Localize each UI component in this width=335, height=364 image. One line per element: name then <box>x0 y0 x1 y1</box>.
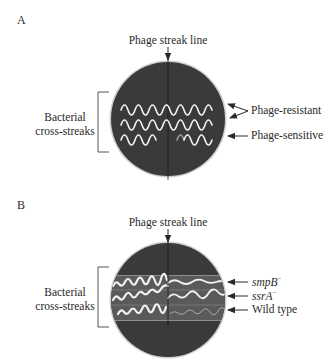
panel-a-phage-streak-label: Phage streak line <box>118 35 218 47</box>
panel-a-bacterial-label-1: Bacterial <box>32 112 98 124</box>
phage-sensitive-label: Phage-sensitive <box>251 130 323 142</box>
smpb-sup: − <box>278 275 282 283</box>
ssra-text: ssrA <box>252 290 272 302</box>
panel-b-phage-streak-label: Phage streak line <box>118 217 218 229</box>
phage-resistant-label: Phage-resistant <box>251 105 321 117</box>
ssra-label: ssrA− <box>252 290 276 303</box>
ssra-sup: − <box>272 289 276 297</box>
panel-a-plate <box>110 47 227 180</box>
smpb-label: smpB− <box>252 276 282 289</box>
panel-a-bacterial-label-2: cross-streaks <box>32 126 98 138</box>
wild-type-label: Wild type <box>252 304 297 316</box>
smpb-text: smpB <box>252 276 278 288</box>
panel-b-bacterial-label-2: cross-streaks <box>32 301 98 313</box>
arrow-left-icon <box>230 111 248 118</box>
arrow-left-icon <box>228 104 248 111</box>
panel-b-bracket <box>98 267 109 327</box>
panel-b-bacterial-label-1: Bacterial <box>32 287 98 299</box>
panel-b-plate <box>108 229 228 359</box>
panel-a-bracket <box>98 92 109 152</box>
